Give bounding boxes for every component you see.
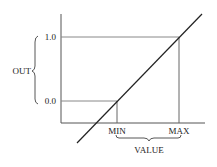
linear-mapping-diagram: 1.0 0.0 OUT MIN MAX VALUE <box>0 0 217 167</box>
mapping-line <box>77 14 202 143</box>
tick-label-1: 1.0 <box>45 32 57 42</box>
x-axis-label: VALUE <box>134 145 164 155</box>
y-axis-label: OUT <box>13 66 32 76</box>
out-brace <box>32 36 38 104</box>
tick-label-0: 0.0 <box>45 96 57 106</box>
tick-label-min: MIN <box>108 126 126 136</box>
tick-label-max: MAX <box>168 126 190 136</box>
